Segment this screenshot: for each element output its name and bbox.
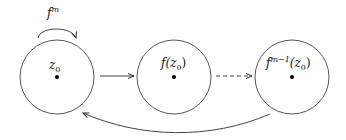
point-fm1z0 xyxy=(290,75,294,79)
node-fm1z0-label: fm−1(z0) xyxy=(266,55,311,72)
arrow-fm1z0-to-z0-curved xyxy=(83,113,270,133)
point-fz0 xyxy=(172,75,176,79)
node-z0-label: z0 xyxy=(49,58,60,74)
self-loop-label: fm xyxy=(47,5,59,20)
point-z0 xyxy=(55,75,59,79)
node-fz0-label: f(z0) xyxy=(161,56,186,72)
self-loop-arrow xyxy=(38,29,76,38)
